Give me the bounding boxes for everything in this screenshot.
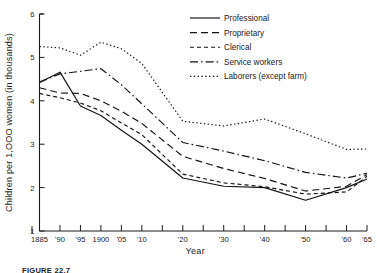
x-axis-title: Year	[186, 246, 205, 256]
x-tick-label: '60	[342, 235, 352, 244]
x-tick-label: '90	[55, 235, 65, 244]
y-tick-label: 4	[30, 97, 34, 106]
series-line-professional	[40, 72, 368, 200]
chart-legend: ProfessionalProprietaryClericalService w…	[190, 14, 307, 81]
x-tick-label: '05	[116, 235, 126, 244]
x-tick-label: '95	[75, 235, 85, 244]
legend-label: Laborers (except farm)	[224, 72, 307, 81]
axes: 1234561885'90'951900'05'10'20'30'40'50'6…	[30, 10, 372, 244]
y-axis-title: Children per 1,OOO women (in thousands)	[4, 33, 14, 212]
y-tick-label: 3	[30, 140, 34, 149]
x-tick-label: '20	[178, 235, 188, 244]
y-tick-label: 2	[30, 184, 34, 193]
figure-root: 1234561885'90'951900'05'10'20'30'40'50'6…	[0, 0, 377, 273]
x-tick-label: '65	[362, 235, 372, 244]
legend-label: Professional	[224, 14, 269, 23]
line-chart: 1234561885'90'951900'05'10'20'30'40'50'6…	[0, 0, 377, 273]
x-tick-label: '40	[260, 235, 270, 244]
figure-caption: FIGURE 22.7	[22, 266, 70, 273]
x-tick-label: 1885	[31, 235, 48, 244]
series-line-clerical	[40, 93, 368, 194]
legend-label: Proprietary	[224, 29, 265, 38]
legend-label: Service workers	[224, 58, 282, 67]
x-tick-label: '50	[301, 235, 311, 244]
y-tick-label: 5	[30, 53, 34, 62]
series-line-service-workers	[40, 69, 368, 178]
x-tick-label: '10	[137, 235, 147, 244]
legend-label: Clerical	[224, 43, 251, 52]
x-tick-label: '30	[219, 235, 229, 244]
x-tick-label: 1900	[92, 235, 109, 244]
series-line-proprietary	[40, 88, 368, 191]
series-lines	[40, 42, 368, 200]
y-tick-label: 6	[30, 10, 34, 19]
